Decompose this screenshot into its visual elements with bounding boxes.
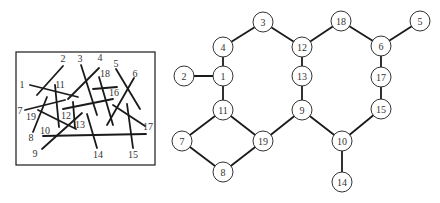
segment-label: 12 xyxy=(61,110,71,121)
node-label: 3 xyxy=(261,17,266,28)
node-label: 14 xyxy=(337,177,347,188)
node-12: 12 xyxy=(292,37,312,57)
segment-line xyxy=(87,114,97,148)
node-label: 15 xyxy=(376,104,386,115)
node-9: 9 xyxy=(292,100,312,120)
segment-label: 14 xyxy=(93,149,103,160)
segment-16: 16 xyxy=(93,87,119,98)
node-8: 8 xyxy=(213,162,233,182)
segment-12: 12 xyxy=(61,99,113,121)
node-4: 4 xyxy=(213,37,233,57)
segment-label: 6 xyxy=(133,68,138,79)
node-5: 5 xyxy=(410,11,430,31)
node-label: 4 xyxy=(221,42,226,53)
node-13: 13 xyxy=(292,66,312,86)
node-19: 19 xyxy=(253,131,273,151)
node-6: 6 xyxy=(371,36,391,56)
segment-label: 7 xyxy=(18,105,23,116)
node-label: 7 xyxy=(180,136,185,147)
node-label: 6 xyxy=(379,41,384,52)
node-label: 18 xyxy=(336,16,346,27)
segment-label: 15 xyxy=(128,149,138,160)
segments-group: 12345678910111213141516171819 xyxy=(18,52,154,160)
intersection-graph-panel: 123456789101112131415171819 xyxy=(172,11,430,192)
node-label: 11 xyxy=(218,105,228,116)
node-1: 1 xyxy=(213,66,233,86)
node-label: 13 xyxy=(297,71,307,82)
node-7: 7 xyxy=(172,131,192,151)
segment-label: 16 xyxy=(109,87,119,98)
segment-17: 17 xyxy=(113,105,153,132)
node-2: 2 xyxy=(174,66,194,86)
node-18: 18 xyxy=(331,11,351,31)
segment-label: 11 xyxy=(55,79,65,90)
node-15: 15 xyxy=(371,99,391,119)
node-label: 12 xyxy=(297,42,307,53)
segment-label: 5 xyxy=(114,58,119,69)
node-label: 10 xyxy=(337,136,347,147)
node-label: 2 xyxy=(182,71,187,82)
segment-label: 17 xyxy=(143,121,153,132)
node-14: 14 xyxy=(332,172,352,192)
segment-label: 9 xyxy=(33,148,38,159)
segment-label: 8 xyxy=(29,132,34,143)
segment-label: 10 xyxy=(40,125,50,136)
node-10: 10 xyxy=(332,131,352,151)
node-11: 11 xyxy=(213,100,233,120)
segment-label: 3 xyxy=(78,53,83,64)
segment-label: 4 xyxy=(98,52,103,63)
segment-15: 15 xyxy=(127,104,138,160)
node-label: 17 xyxy=(376,72,386,83)
node-label: 1 xyxy=(221,71,226,82)
line-segments-panel: 12345678910111213141516171819 xyxy=(16,52,155,165)
node-label: 19 xyxy=(258,136,268,147)
segment-14: 14 xyxy=(87,114,103,160)
segment-label: 18 xyxy=(100,68,110,79)
figure-canvas: 12345678910111213141516171819 1234567891… xyxy=(0,0,440,203)
node-3: 3 xyxy=(253,12,273,32)
segment-label: 19 xyxy=(26,111,36,122)
node-label: 8 xyxy=(221,167,226,178)
segment-line xyxy=(127,104,133,148)
graph-nodes: 123456789101112131415171819 xyxy=(172,11,430,192)
segment-label: 1 xyxy=(20,79,25,90)
segment-label: 2 xyxy=(61,53,66,64)
segment-5: 5 xyxy=(114,58,141,109)
node-17: 17 xyxy=(371,67,391,87)
intersection-graph-figure: 12345678910111213141516171819 1234567891… xyxy=(0,0,440,203)
node-label: 5 xyxy=(418,16,423,27)
node-label: 9 xyxy=(300,105,305,116)
